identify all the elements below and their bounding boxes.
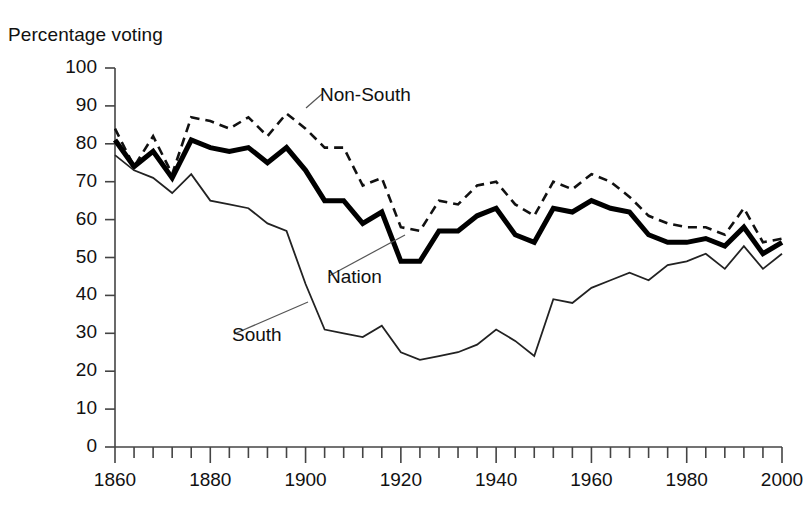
- y-tick-label: 60: [37, 208, 97, 230]
- x-tick-label: 1920: [361, 469, 441, 491]
- series-line-south: [115, 155, 782, 360]
- y-tick-label: 50: [37, 246, 97, 268]
- y-tick-label: 20: [37, 359, 97, 381]
- series-line-nation: [115, 140, 782, 261]
- x-tick-label: 2000: [742, 469, 807, 491]
- x-tick-label: 1940: [456, 469, 536, 491]
- series-label-south: South: [232, 324, 282, 346]
- y-axis-ticks: [105, 68, 115, 447]
- chart-plot-area: [0, 0, 807, 511]
- chart-figure: Percentage voting 0102030405060708090100…: [0, 0, 807, 511]
- y-tick-label: 0: [37, 435, 97, 457]
- x-tick-label: 1880: [170, 469, 250, 491]
- x-axis-ticks: [115, 447, 782, 463]
- y-tick-label: 100: [37, 56, 97, 78]
- x-tick-label: 1860: [75, 469, 155, 491]
- series-label-nation: Nation: [327, 266, 382, 288]
- series-line-non-south: [115, 113, 782, 242]
- y-tick-label: 80: [37, 132, 97, 154]
- series-label-non-south: Non-South: [320, 84, 411, 106]
- y-tick-label: 70: [37, 170, 97, 192]
- axes: [115, 68, 782, 447]
- data-series-group: [115, 113, 782, 359]
- y-tick-label: 10: [37, 397, 97, 419]
- y-tick-label: 40: [37, 283, 97, 305]
- y-tick-label: 30: [37, 321, 97, 343]
- x-tick-label: 1900: [266, 469, 346, 491]
- y-tick-label: 90: [37, 94, 97, 116]
- x-tick-label: 1980: [647, 469, 727, 491]
- x-tick-label: 1960: [551, 469, 631, 491]
